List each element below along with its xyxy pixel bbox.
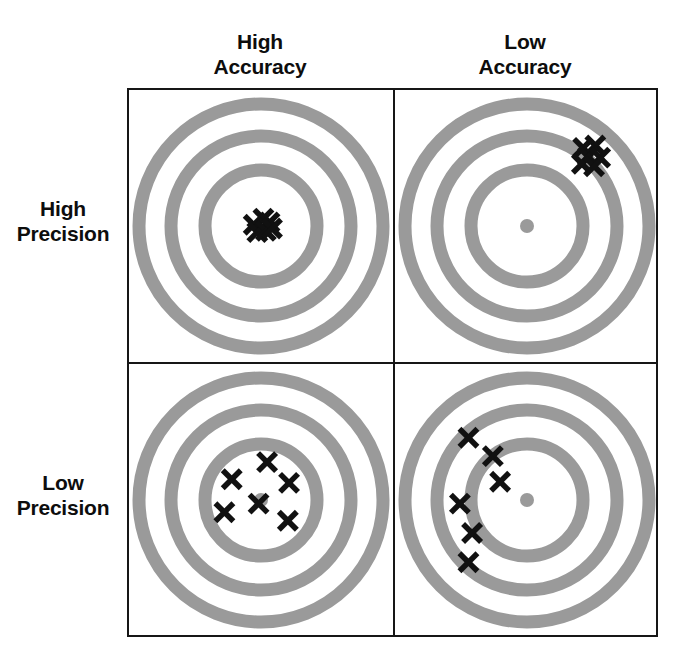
accuracy-precision-figure: High Accuracy Low Accuracy High Precisio… <box>0 0 689 664</box>
bullseye-center-dot <box>520 493 534 507</box>
target-panel-low-accuracy-low-precision <box>395 364 659 636</box>
target-svg-high-accuracy-low-precision <box>129 364 393 636</box>
row-header-low-precision-line2: Precision <box>2 496 124 521</box>
bullseye-center-dot <box>520 219 534 233</box>
shot-mark <box>279 512 297 530</box>
shot-mark <box>280 474 298 492</box>
row-header-low-precision: Low Precision <box>2 471 124 521</box>
shot-mark <box>223 470 241 488</box>
column-header-low-accuracy-line2: Accuracy <box>415 55 635 80</box>
target-svg-high-accuracy-high-precision <box>129 90 393 362</box>
target-svg-low-accuracy-low-precision <box>395 364 659 636</box>
column-header-high-accuracy: High Accuracy <box>150 30 370 80</box>
row-header-high-precision-line1: High <box>2 197 124 222</box>
target-panel-low-accuracy-high-precision <box>395 90 659 362</box>
row-header-high-precision-line2: Precision <box>2 222 124 247</box>
column-header-high-accuracy-line1: High <box>150 30 370 55</box>
target-panel-high-accuracy-high-precision <box>129 90 393 362</box>
column-header-low-accuracy-line1: Low <box>415 30 635 55</box>
row-header-low-precision-line1: Low <box>2 471 124 496</box>
shot-mark <box>215 503 233 521</box>
target-grid <box>127 88 658 637</box>
column-header-high-accuracy-line2: Accuracy <box>150 55 370 80</box>
target-panel-high-accuracy-low-precision <box>129 364 393 636</box>
shot-mark <box>491 473 509 491</box>
column-header-low-accuracy: Low Accuracy <box>415 30 635 80</box>
row-header-high-precision: High Precision <box>2 197 124 247</box>
shot-mark <box>258 453 276 471</box>
target-svg-low-accuracy-high-precision <box>395 90 659 362</box>
